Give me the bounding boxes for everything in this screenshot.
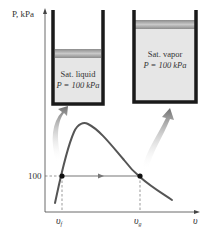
y-axis-label: P, kPa xyxy=(12,9,34,19)
x-axis xyxy=(45,210,200,214)
right-cylinder-line1: Sat. vapor xyxy=(148,49,183,59)
cylinder-sat-vapor: Sat. vapor P = 100 kPa xyxy=(134,10,196,102)
right-cylinder-line2: P = 100 kPa xyxy=(142,60,186,70)
left-cylinder-line1: Sat. liquid xyxy=(61,69,97,79)
x-axis-arrow-icon xyxy=(194,210,200,214)
x-tick-vf: υf xyxy=(56,215,64,227)
process-direction-arrow-icon xyxy=(98,174,104,179)
y-tick-100: 100 xyxy=(28,171,42,181)
piston-right xyxy=(135,20,195,29)
pv-diagram: P, kPa 100 υ υf υg Sat. liquid P = 100 k… xyxy=(0,0,212,240)
arrow-to-vapor-icon xyxy=(142,108,174,170)
sat-liquid-point xyxy=(59,173,64,178)
y-axis xyxy=(43,8,47,212)
y-axis-arrow-icon xyxy=(43,8,47,14)
left-cylinder-line2: P = 100 kPa xyxy=(55,80,99,90)
saturation-curve xyxy=(55,123,172,203)
piston-left xyxy=(55,49,101,58)
cylinder-sat-liquid: Sat. liquid P = 100 kPa xyxy=(53,10,103,104)
x-tick-vg: υg xyxy=(134,215,142,227)
x-axis-label: υ xyxy=(193,215,198,226)
sat-vapor-point xyxy=(137,173,142,178)
